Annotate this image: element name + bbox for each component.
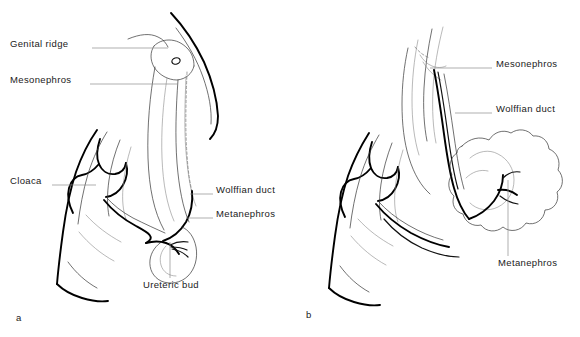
hindgut-sweep-b bbox=[378, 201, 443, 240]
ureteric-tree-branch-2-b bbox=[503, 172, 520, 178]
pelvic-wall-outer-b bbox=[329, 133, 369, 288]
label-mesonephros-a: Mesonephros bbox=[10, 75, 71, 85]
body-wall-inner-b bbox=[402, 48, 430, 194]
cloaca-outline-b bbox=[369, 142, 398, 178]
gonad-ovoid-a bbox=[171, 57, 181, 65]
genital-ridge-left-edge-a bbox=[154, 40, 194, 66]
pelvic-wall-inner-b bbox=[350, 135, 379, 228]
body-wall-outer2-b bbox=[433, 27, 443, 143]
pelvic-wall-outer-a bbox=[57, 130, 97, 284]
label-metanephros-b: Metanephros bbox=[498, 258, 557, 268]
label-mesonephros-b: Mesonephros bbox=[496, 59, 557, 69]
label-cloaca: Cloaca bbox=[10, 176, 42, 186]
ureteric-tree-branch-1-b bbox=[498, 190, 517, 195]
wolffian-duct-companion-b bbox=[438, 72, 458, 189]
cloaca-outline-a bbox=[97, 139, 126, 174]
ureteric-bud-branch-upper-a bbox=[170, 242, 188, 245]
cloaca-lower-hook-a bbox=[68, 164, 99, 213]
ureteric-bud-branch-lower-a bbox=[172, 249, 188, 257]
label-wolffian-duct-a: Wolffian duct bbox=[216, 185, 275, 195]
anatomical-figure: Genital ridge Mesonephros Cloaca Wolffia… bbox=[0, 0, 580, 337]
pelvic-fold-4-b bbox=[351, 236, 386, 265]
label-metanephros-a: Metanephros bbox=[216, 209, 275, 219]
tail-curve-b bbox=[329, 288, 380, 305]
hindgut-sweep-heavy-a bbox=[104, 200, 151, 243]
pelvic-fold-4-a bbox=[79, 232, 114, 261]
pelvic-wall-inner-a bbox=[78, 132, 107, 224]
label-genital-ridge: Genital ridge bbox=[10, 39, 68, 49]
mesonephros-remnant-b bbox=[420, 55, 446, 68]
body-wall-outer-b bbox=[424, 29, 432, 141]
mesonephros-medial-edge-a bbox=[176, 80, 189, 222]
label-ureteric-bud: Ureteric bud bbox=[143, 280, 199, 290]
ureteric-tree-stem-b bbox=[469, 175, 503, 219]
panel-a-drawing bbox=[57, 13, 218, 301]
figure-linework bbox=[0, 0, 580, 337]
tail-curve-a bbox=[57, 284, 108, 301]
wolffian-duct-hidden-a bbox=[186, 72, 192, 191]
tail-inner-a bbox=[68, 262, 97, 288]
body-wall-inner2-b bbox=[412, 40, 419, 155]
label-wolffian-duct-b: Wolffian duct bbox=[496, 104, 555, 114]
metanephros-hilum-shade-b bbox=[466, 170, 488, 178]
mesonephros-inner-fold-a bbox=[162, 78, 174, 221]
tail-inner-b bbox=[340, 266, 369, 292]
wolffian-duct-visible-a bbox=[163, 191, 192, 241]
cloaca-lower-hook-b bbox=[340, 168, 371, 217]
hindgut-sweep-heavy-b bbox=[376, 204, 449, 247]
panel-letter-b: b bbox=[306, 310, 311, 320]
hindgut-sweep-a bbox=[106, 197, 165, 233]
metanephros-inner-a bbox=[160, 246, 176, 276]
pelvic-fold-3-a bbox=[86, 215, 121, 242]
panel-letter-a: a bbox=[16, 313, 21, 323]
